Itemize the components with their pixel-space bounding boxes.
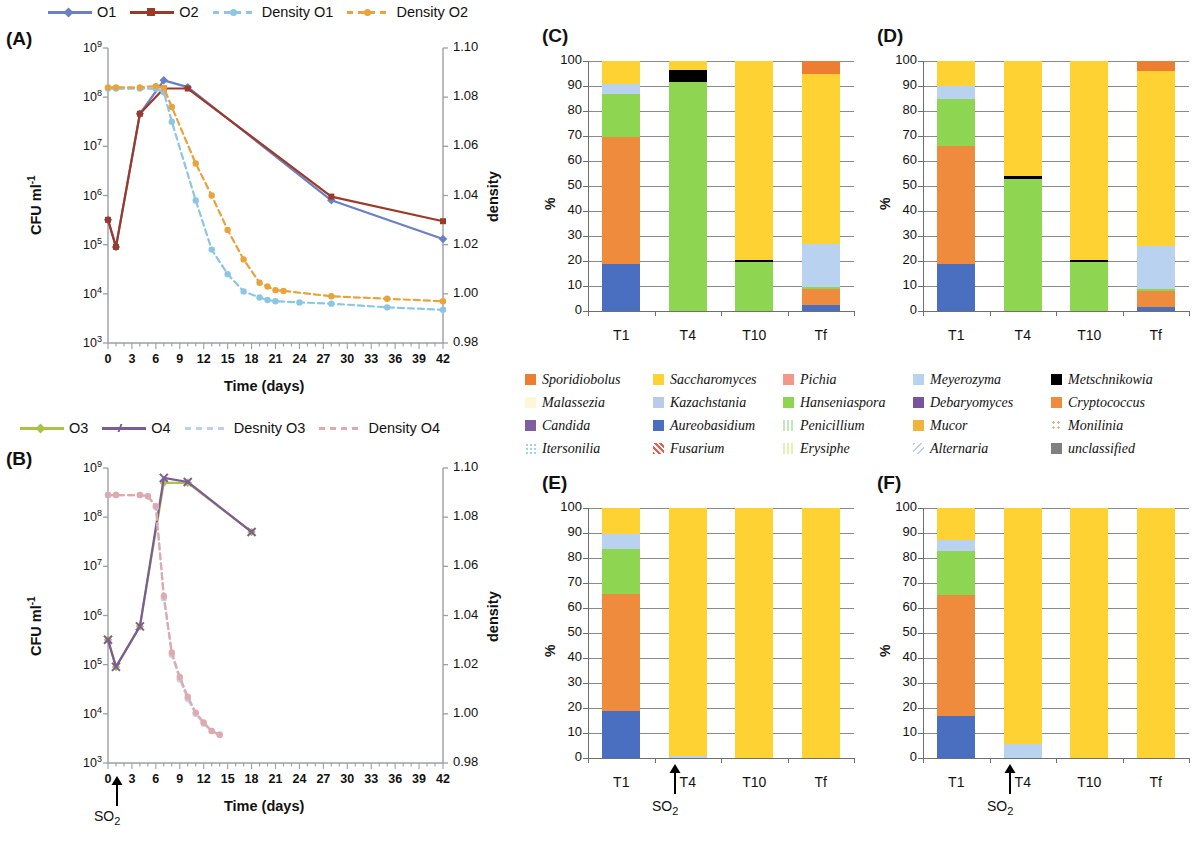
x-tick-label: 42 [429, 772, 457, 786]
species-legend-column-1: SaccharomycesKazachstaniaAureobasidiumFu… [653, 368, 757, 460]
y-tick-label: 0 [883, 749, 917, 764]
bar-segment-aureobasidium [602, 711, 640, 759]
species-legend-item-monilinia: Monilinia [1051, 414, 1153, 437]
panel-a-tag: (A) [6, 28, 32, 50]
species-legend-column-3: MeyerozymaDebaryomycesMucorAlternaria [913, 368, 1013, 460]
panel-a-plot-area: 1091081071061051041031.101.081.061.041.0… [108, 48, 443, 343]
bar-segment-hanseniaspora [937, 551, 975, 595]
bar-segment-cryptococcus [802, 289, 840, 305]
y-axis [923, 61, 924, 311]
y-tick-label: 30 [548, 227, 582, 242]
bar-segment-metschnikowia [1070, 260, 1108, 262]
series-line-o2 [108, 89, 443, 247]
y-tick-label: 50 [548, 177, 582, 192]
bar-segment-hanseniaspora [1004, 179, 1042, 312]
bar-segment-saccharomyces [1004, 61, 1042, 176]
y-tick-label-right: 0.98 [453, 754, 478, 769]
data-point [439, 235, 447, 243]
bar-segment-cryptococcus [937, 595, 975, 716]
species-legend-item-alternaria: Alternaria [913, 437, 1013, 460]
y-tick-label: 40 [883, 649, 917, 664]
panel-c-stacked-bar: (C) % 0102030405060708090100T1T4T10Tf [530, 25, 865, 365]
species-legend-item-candida: Candida [525, 414, 621, 437]
color-swatch-icon [653, 397, 664, 408]
data-point [280, 288, 286, 294]
legend-label: O3 [69, 420, 88, 436]
x-category-label-tf: Tf [1126, 327, 1186, 343]
y-tick-label: 20 [883, 699, 917, 714]
bar-segment-saccharomyces [735, 61, 773, 260]
data-point [264, 297, 270, 303]
panelB-legend-item-o3: O3 [20, 420, 88, 436]
legend-label: Density O2 [396, 4, 468, 20]
panelA-legend-item-o1: O1 [48, 4, 116, 20]
y-tick-label: 40 [883, 202, 917, 217]
y-tick-label: 20 [883, 252, 917, 267]
x-tick [1056, 758, 1057, 763]
bar-segment-meyerozyma [602, 84, 640, 94]
y-tick-label: 100 [883, 499, 917, 514]
panel-b-ylabel-left: CFU ml-1 [26, 596, 44, 656]
data-point [137, 84, 143, 90]
bar-segment-aureobasidium [937, 264, 975, 312]
panel-b-xlabel: Time (days) [224, 798, 304, 814]
bar-segment-meyerozyma [802, 244, 840, 288]
bar-segment-saccharomyces [802, 74, 840, 244]
x-tick [721, 311, 722, 316]
data-point [256, 294, 262, 300]
stacked-bar-t1 [602, 61, 640, 311]
y-tick-label: 70 [548, 574, 582, 589]
x-tick [1123, 758, 1124, 763]
species-legend-column-0: SporidiobolusMalasseziaCandidaItersonili… [525, 368, 621, 460]
species-legend-item-kazachstania: Kazachstania [653, 391, 757, 414]
panelB-legend-item-o4: O4 [102, 420, 170, 436]
species-legend-column-4: MetschnikowiaCryptococcusMoniliniaunclas… [1051, 368, 1153, 460]
y-tick-label: 100 [548, 52, 582, 67]
x-tick [923, 758, 924, 763]
species-legend-item-erysiphe: Erysiphe [783, 437, 886, 460]
species-name: Erysiphe [800, 441, 850, 457]
y-axis [923, 508, 924, 758]
y-tick-label: 50 [548, 624, 582, 639]
y-tick-label: 10 [548, 724, 582, 739]
data-point [264, 283, 270, 289]
data-point [384, 304, 390, 310]
data-point [328, 300, 334, 306]
bar-segment-meyerozyma [937, 540, 975, 551]
species-name: Meyerozyma [930, 372, 1001, 388]
bar-segment-aureobasidium [937, 716, 975, 759]
y-tick-label-right: 1.08 [453, 88, 478, 103]
color-swatch-icon [525, 443, 536, 454]
x-tick [721, 758, 722, 763]
data-point [169, 104, 175, 110]
data-point [440, 307, 446, 313]
x-category-label-t10: T10 [1059, 774, 1119, 790]
data-point [153, 83, 159, 89]
y-tick-label-right: 1.00 [453, 705, 478, 720]
x-tick [854, 758, 855, 763]
species-legend-item-malassezia: Malassezia [525, 391, 621, 414]
y-tick-label: 20 [548, 699, 582, 714]
bar-segment-saccharomyces [669, 61, 707, 70]
y-tick-label: 30 [883, 227, 917, 242]
bar-segment-saccharomyces [669, 508, 707, 756]
bar-segment-cryptococcus [602, 137, 640, 263]
panel-b-legend: O3O4Desnity O3Density O4 [20, 420, 454, 436]
x-category-label-t10: T10 [1059, 327, 1119, 343]
bar-segment-saccharomyces [1137, 71, 1175, 246]
data-point [185, 86, 191, 92]
bar-segment-saccharomyces [602, 61, 640, 84]
species-name: Mucor [930, 418, 967, 434]
x-category-label-t10: T10 [724, 774, 784, 790]
data-point [296, 299, 302, 305]
data-point [193, 160, 199, 166]
bar-segment-saccharomyces [937, 508, 975, 540]
color-swatch-icon [525, 374, 536, 385]
y-tick-label: 60 [548, 599, 582, 614]
color-swatch-icon [653, 420, 664, 431]
bar-segment-meyerozyma [602, 534, 640, 549]
legend-key-icon [130, 6, 174, 18]
panel-b-line-chart: O3O4Desnity O3Density O4 (B) 10910810710… [0, 408, 500, 845]
x-tick [1056, 311, 1057, 316]
data-point [161, 85, 167, 91]
